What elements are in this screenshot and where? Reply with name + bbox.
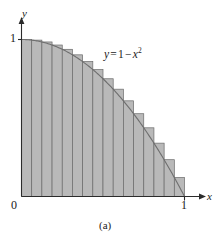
riemann-sum-plot (0, 0, 220, 239)
riemann-rectangle (123, 101, 133, 197)
riemann-rectangles-group (22, 40, 185, 197)
figure-caption: (a) (99, 220, 111, 231)
equation-exponent: 2 (138, 46, 142, 55)
riemann-rectangle (72, 55, 82, 197)
y-axis-label: y (22, 8, 27, 19)
riemann-rectangle (83, 62, 93, 197)
riemann-rectangle (103, 79, 113, 197)
riemann-rectangle (32, 40, 42, 196)
curve-equation-label: y=1−x2 (104, 49, 142, 61)
riemann-rectangle (113, 89, 123, 196)
riemann-rectangle (93, 70, 103, 197)
equation-equals: = (109, 48, 118, 60)
x-tick-label-1: 1 (181, 199, 187, 211)
figure-container: y x 1 0 1 y=1−x2 (a) (0, 0, 220, 239)
equation-minus: − (124, 48, 133, 60)
riemann-rectangle (62, 49, 72, 196)
riemann-rectangle (42, 42, 52, 197)
riemann-rectangle (52, 45, 62, 196)
x-tick-label-0: 0 (11, 199, 17, 211)
riemann-rectangle (164, 160, 174, 197)
riemann-rectangle (22, 40, 32, 197)
x-axis-arrow-icon (199, 194, 206, 200)
x-axis-label: x (207, 191, 212, 202)
y-tick-label-1: 1 (10, 32, 16, 44)
riemann-rectangle (144, 128, 154, 197)
